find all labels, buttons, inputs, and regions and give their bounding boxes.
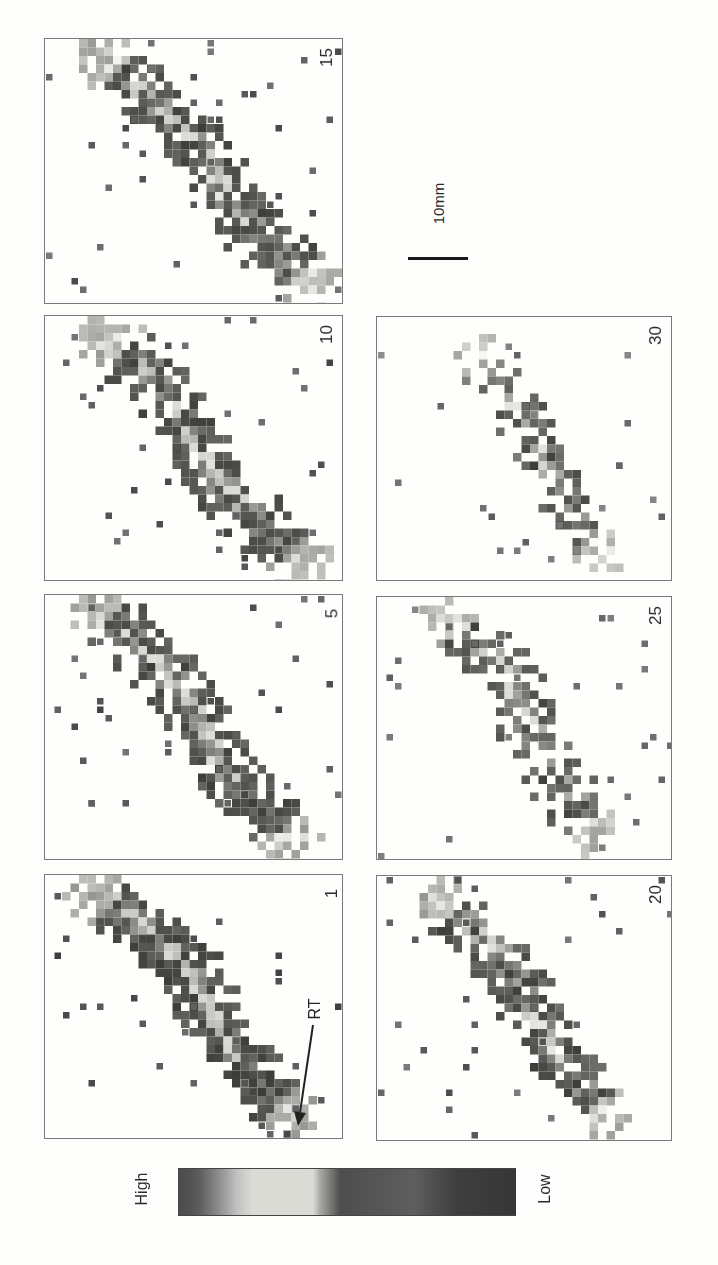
heatmap-panel-25: 25: [376, 596, 672, 860]
heatmap-canvas: [45, 595, 343, 860]
panel-label: 5: [323, 609, 340, 618]
panel-label: 20: [647, 885, 664, 904]
heatmap-panel-15: 15: [44, 38, 343, 304]
colorbar-high-label: High: [133, 1173, 151, 1206]
colorbar-low-label: Low: [536, 1174, 554, 1203]
heatmap-panel-30: 30: [376, 316, 672, 581]
heatmap-panel-20: 20: [376, 875, 672, 1141]
panel-label: 10: [318, 325, 335, 344]
heatmap-canvas: [377, 597, 672, 860]
heatmap-canvas: [45, 875, 343, 1139]
heatmap-canvas: [45, 39, 343, 304]
heatmap-canvas: [45, 316, 343, 581]
panel-label: 15: [318, 48, 335, 67]
heatmap-canvas: [377, 876, 672, 1141]
scale-bar: [408, 257, 468, 260]
colorbar: [178, 1168, 516, 1216]
heatmap-panel-10: 10: [44, 315, 343, 581]
heatmap-panel-5: 5: [44, 594, 343, 860]
rt-label: RT: [306, 998, 324, 1019]
panel-label: 1: [323, 889, 340, 898]
heatmap-canvas: [377, 317, 672, 581]
panel-label: 30: [647, 326, 664, 345]
heatmap-panel-1: 1: [44, 874, 343, 1139]
panel-label: 25: [647, 606, 664, 625]
scale-bar-label: 10mm: [430, 183, 447, 225]
